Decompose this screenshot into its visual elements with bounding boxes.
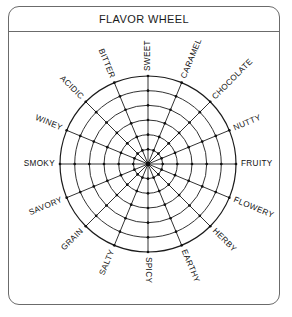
wheel-node-caramel-3 <box>163 122 166 125</box>
wheel-svg: SWEETCARAMELCHOCOLATENUTTYFRUITYFLOWERYH… <box>0 0 292 317</box>
wheel-node-winey-4 <box>92 140 95 143</box>
spoke-label-earthy: EARTHY <box>180 248 202 284</box>
wheel-node-fruity-4 <box>205 163 208 166</box>
wheel-node-flowery-4 <box>201 185 204 188</box>
wheel-node-chocolate-5 <box>198 111 201 114</box>
spoke-label-nutty: NUTTY <box>232 113 262 132</box>
wheel-node-nutty-3 <box>187 146 190 149</box>
wheel-node-earthy-2 <box>158 190 161 193</box>
wheel-node-sweet-3 <box>147 119 150 122</box>
wheel-node-bitter-4 <box>124 108 127 111</box>
wheel-node-bitter-5 <box>119 95 122 98</box>
wheel-node-caramel-6 <box>180 81 183 84</box>
wheel-node-sweet-2 <box>147 133 150 136</box>
wheel-node-savory-1 <box>133 168 136 171</box>
wheel-node-nutty-1 <box>160 157 163 160</box>
wheel-node-sweet-5 <box>147 89 150 92</box>
wheel-node-sweet-4 <box>147 104 150 107</box>
wheel-node-smoky-3 <box>103 163 106 166</box>
wheel-node-spicy-2 <box>147 192 150 195</box>
wheel-node-nutty-4 <box>201 140 204 143</box>
wheel-node-fruity-2 <box>176 163 179 166</box>
wheel-node-salty-6 <box>113 244 116 247</box>
wheel-node-winey-5 <box>79 135 82 138</box>
wheel-node-smoky-4 <box>88 163 91 166</box>
spoke-label-fruity: FRUITY <box>241 159 273 168</box>
wheel-node-winey-1 <box>133 157 136 160</box>
wheel-node-spicy-3 <box>147 207 150 210</box>
wheel-node-savory-5 <box>79 191 82 194</box>
wheel-node-grain-2 <box>126 183 129 186</box>
wheel-node-nutty-5 <box>214 135 217 138</box>
wheel-node-herby-2 <box>167 183 170 186</box>
wheel-node-salty-2 <box>135 190 138 193</box>
wheel-node-smoky-2 <box>117 163 120 166</box>
wheel-node-acidic-4 <box>105 121 108 124</box>
wheel-node-salty-1 <box>141 176 144 179</box>
wheel-node-savory-2 <box>120 174 123 177</box>
flavor-wheel-chart: SWEETCARAMELCHOCOLATENUTTYFRUITYFLOWERYH… <box>0 0 292 317</box>
wheel-node-spicy-5 <box>147 236 150 239</box>
wheel-node-sweet-1 <box>147 148 150 151</box>
wheel-node-chocolate-3 <box>178 132 181 135</box>
wheel-node-grain-5 <box>95 214 98 217</box>
wheel-node-sweet-6 <box>147 75 150 78</box>
wheel-node-earthy-1 <box>152 176 155 179</box>
wheel-node-caramel-1 <box>152 149 155 152</box>
spoke-label-grain: GRAIN <box>59 226 85 252</box>
wheel-node-spicy-1 <box>147 177 150 180</box>
wheel-node-salty-4 <box>124 217 127 220</box>
wheel-node-flowery-3 <box>187 179 190 182</box>
wheel-node-acidic-1 <box>136 152 139 155</box>
spoke-label-sweet: SWEET <box>143 40 152 71</box>
wheel-node-flowery-6 <box>228 196 231 199</box>
wheel-node-acidic-3 <box>116 132 119 135</box>
wheel-node-savory-6 <box>65 196 68 199</box>
wheel-node-bitter-3 <box>130 122 133 125</box>
flavor-wheel-screen: FLAVOR WHEEL SWEETCARAMELCHOCOLATENUTTYF… <box>0 0 292 317</box>
spoke-label-smoky: SMOKY <box>24 159 56 168</box>
wheel-node-smoky-6 <box>59 163 62 166</box>
wheel-node-smoky-1 <box>132 163 135 166</box>
wheel-node-caramel-4 <box>169 108 172 111</box>
wheel-node-herby-6 <box>209 225 212 228</box>
wheel-node-nutty-2 <box>174 151 177 154</box>
wheel-node-nutty-6 <box>228 129 231 132</box>
wheel-node-fruity-5 <box>220 163 223 166</box>
wheel-node-acidic-6 <box>84 100 87 103</box>
wheel-node-savory-3 <box>106 179 109 182</box>
wheel-node-savory-4 <box>92 185 95 188</box>
spoke-label-acidic: ACIDIC <box>58 74 85 101</box>
spoke-label-spicy: SPICY <box>144 257 153 284</box>
spoke-label-caramel: CARAMEL <box>179 37 203 79</box>
wheel-node-acidic-2 <box>126 142 129 145</box>
wheel-node-winey-6 <box>65 129 68 132</box>
wheel-node-herby-4 <box>188 204 191 207</box>
wheel-node-earthy-4 <box>169 217 172 220</box>
wheel-center-hub <box>146 162 151 167</box>
wheel-node-fruity-3 <box>191 163 194 166</box>
wheel-node-bitter-6 <box>113 81 116 84</box>
spoke-label-savory: SAVORY <box>27 195 63 217</box>
wheel-node-acidic-5 <box>95 111 98 114</box>
wheel-node-earthy-5 <box>175 230 178 233</box>
wheel-node-grain-3 <box>116 194 119 197</box>
spoke-label-salty: SALTY <box>98 248 117 277</box>
spoke-label-flowery: FLOWERY <box>232 195 275 220</box>
spoke-label-chocolate: CHOCOLATE <box>210 57 254 101</box>
wheel-node-flowery-2 <box>174 174 177 177</box>
wheel-node-fruity-1 <box>161 163 164 166</box>
wheel-node-herby-5 <box>198 214 201 217</box>
spoke-label-winey: WINEY <box>34 113 64 132</box>
wheel-node-chocolate-1 <box>157 152 160 155</box>
wheel-node-earthy-6 <box>180 244 183 247</box>
wheel-node-winey-2 <box>120 151 123 154</box>
wheel-node-fruity-6 <box>235 163 238 166</box>
wheel-node-spicy-6 <box>147 251 150 254</box>
wheel-node-grain-1 <box>136 173 139 176</box>
wheel-node-bitter-1 <box>141 149 144 152</box>
wheel-node-spicy-4 <box>147 221 150 224</box>
wheel-node-herby-3 <box>178 194 181 197</box>
wheel-node-caramel-5 <box>175 95 178 98</box>
wheel-node-flowery-1 <box>160 168 163 171</box>
